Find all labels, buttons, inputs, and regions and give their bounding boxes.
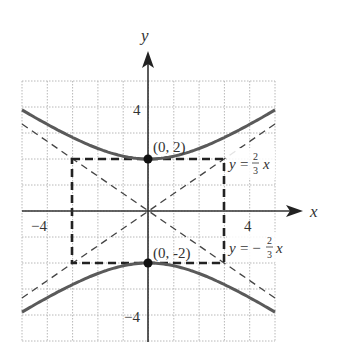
x-tick-label-neg4: −4 xyxy=(31,218,47,234)
svg-text:3: 3 xyxy=(267,249,272,260)
svg-text:x: x xyxy=(262,156,270,172)
vertex-point-top xyxy=(144,155,153,164)
svg-text:=: = xyxy=(240,156,248,172)
y-tick-label-pos4: 4 xyxy=(133,102,141,118)
vertex-point-bottom xyxy=(144,259,153,268)
x-axis xyxy=(22,205,303,217)
svg-text:y: y xyxy=(227,240,236,256)
svg-text:2: 2 xyxy=(267,235,272,246)
asymptote-negative-label: y = − 2 3 x xyxy=(227,232,289,262)
svg-text:x: x xyxy=(275,240,283,256)
x-axis-label: x xyxy=(309,202,318,221)
hyperbola-graph: x y −4 4 4 −4 (0, 2) (0, -2) y = 2 3 x y… xyxy=(0,0,338,360)
y-axis-label: y xyxy=(139,26,149,45)
y-tick-label-neg4: −4 xyxy=(124,309,140,325)
svg-text:3: 3 xyxy=(253,165,258,176)
svg-text:y: y xyxy=(227,156,236,172)
y-axis xyxy=(142,51,154,342)
vertex-label-bottom: (0, -2) xyxy=(153,245,191,262)
svg-text:2: 2 xyxy=(253,151,258,162)
svg-text:= −: = − xyxy=(240,240,261,256)
asymptote-positive-label: y = 2 3 x xyxy=(227,148,275,178)
x-tick-label-pos4: 4 xyxy=(244,218,252,234)
vertex-label-top: (0, 2) xyxy=(153,139,186,156)
